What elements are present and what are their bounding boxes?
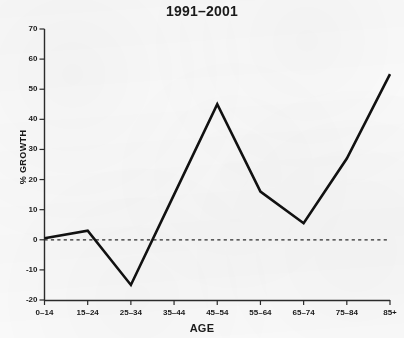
x-tick-label: 65–74 xyxy=(281,308,327,317)
y-tick-label: 70 xyxy=(12,24,38,33)
y-tick-label: 60 xyxy=(12,54,38,63)
y-tick-label: -20 xyxy=(12,295,38,304)
x-tick-label: 0–14 xyxy=(22,308,68,317)
x-tick-label: 25–34 xyxy=(108,308,154,317)
y-tick-label: 40 xyxy=(12,114,38,123)
y-tick-label: 10 xyxy=(12,205,38,214)
y-tick-marks xyxy=(40,29,45,300)
y-tick-label: -10 xyxy=(12,265,38,274)
plot-area xyxy=(0,0,404,338)
y-tick-label: 20 xyxy=(12,175,38,184)
x-tick-label: 55–64 xyxy=(237,308,283,317)
x-tick-label: 45–54 xyxy=(194,308,240,317)
y-tick-label: 30 xyxy=(12,144,38,153)
x-tick-label: 75–84 xyxy=(324,308,370,317)
y-tick-label: 50 xyxy=(12,84,38,93)
data-series-line xyxy=(45,74,391,285)
y-tick-label: 0 xyxy=(12,235,38,244)
x-tick-label: 85+ xyxy=(367,308,404,317)
chart-container: 1991–2001 % GROWTH AGE 706050403020100-1… xyxy=(0,0,404,338)
axes-group xyxy=(45,29,391,301)
x-tick-label: 35–44 xyxy=(151,308,197,317)
x-tick-label: 15–24 xyxy=(65,308,111,317)
